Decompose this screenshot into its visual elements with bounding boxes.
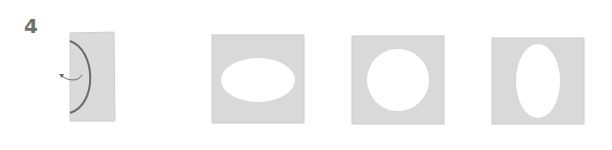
vertical-oval-cutout bbox=[516, 44, 560, 118]
horizontal-oval-cutout bbox=[221, 58, 295, 102]
diagram-canvas bbox=[0, 0, 612, 150]
vertical-oval-figure bbox=[492, 38, 584, 124]
circle-figure bbox=[352, 36, 444, 124]
folded-card-figure bbox=[59, 32, 115, 121]
horizontal-oval-figure bbox=[212, 35, 304, 123]
circle-cutout bbox=[367, 49, 429, 111]
